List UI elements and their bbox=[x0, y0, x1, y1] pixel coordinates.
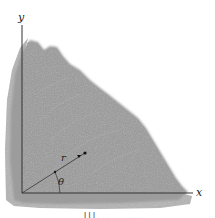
figure-caption: Ill... ... bbox=[0, 209, 215, 218]
plate-diagram: y x r θ bbox=[0, 0, 215, 218]
x-axis-label: x bbox=[196, 186, 203, 199]
theta-label: θ bbox=[58, 176, 64, 187]
plate-body bbox=[22, 42, 186, 193]
radius-endpoint-dot bbox=[83, 151, 86, 154]
y-axis-label: y bbox=[17, 11, 25, 24]
